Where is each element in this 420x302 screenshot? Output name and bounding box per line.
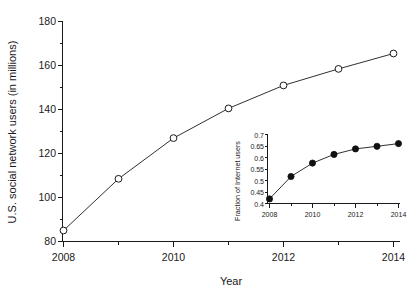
data-point-marker xyxy=(309,160,315,166)
inset-y-tick-label: 0.45 xyxy=(250,189,264,196)
main-y-axis-label: U.S. social network users (in millions) xyxy=(6,41,18,224)
main-y-tick-label: 140 xyxy=(38,103,56,115)
main-x-tick-label: 2010 xyxy=(162,251,186,263)
data-point-marker xyxy=(374,143,380,149)
data-point-marker xyxy=(170,135,177,142)
inset-y-tick-label: 0.65 xyxy=(250,143,264,150)
main-y-tick-label: 120 xyxy=(38,147,56,159)
data-point-marker xyxy=(352,146,358,152)
inset-y-tick-label: 0.5 xyxy=(254,178,264,185)
data-point-marker xyxy=(225,105,232,112)
data-point-marker xyxy=(115,175,122,182)
inset-x-ticks xyxy=(270,204,399,208)
inset-x-tick-label: 2012 xyxy=(348,211,364,218)
main-y-tick-label: 80 xyxy=(44,235,56,247)
main-x-tick-label: 2012 xyxy=(272,251,296,263)
inset-y-tick-label: 0.7 xyxy=(254,132,264,139)
inset-series-markers xyxy=(266,141,401,202)
inset-y-axis-label: Fraction of Internet users xyxy=(233,141,242,221)
main-x-axis-label: Year xyxy=(220,275,243,287)
inset-plot: Fraction of Internet users 0.7 0.65 0.6 … xyxy=(233,132,406,221)
main-plot: U.S. social network users (in millions) … xyxy=(6,15,405,287)
inset-y-tick-labels: 0.7 0.65 0.6 0.55 0.5 0.45 0.4 xyxy=(250,132,264,208)
data-point-marker xyxy=(390,50,397,57)
main-y-tick-labels: 180 160 140 120 100 80 xyxy=(38,15,56,247)
data-point-marker xyxy=(331,151,337,157)
inset-y-tick-label: 0.6 xyxy=(254,155,264,162)
chart-svg: U.S. social network users (in millions) … xyxy=(0,0,420,302)
main-y-tick-label: 160 xyxy=(38,59,56,71)
inset-x-tick-label: 2008 xyxy=(262,211,278,218)
main-y-tick-label: 180 xyxy=(38,15,56,27)
main-series-markers xyxy=(60,50,397,234)
inset-x-tick-label: 2010 xyxy=(305,211,321,218)
data-point-marker xyxy=(60,227,67,234)
data-point-marker xyxy=(280,82,287,89)
main-x-tick-label: 2014 xyxy=(382,251,406,263)
figure-canvas: U.S. social network users (in millions) … xyxy=(0,0,420,302)
data-point-marker xyxy=(266,196,272,202)
main-x-minor-ticks xyxy=(119,242,339,246)
inset-x-tick-label: 2014 xyxy=(391,211,407,218)
inset-y-tick-label: 0.4 xyxy=(254,201,264,208)
inset-y-tick-label: 0.55 xyxy=(250,166,264,173)
main-x-tick-labels: 2008 2010 2012 2014 xyxy=(52,251,406,263)
data-point-marker xyxy=(395,141,401,147)
data-point-marker xyxy=(288,173,294,179)
main-x-tick-label: 2008 xyxy=(52,251,76,263)
inset-x-tick-labels: 2008 2010 2012 2014 xyxy=(262,211,407,218)
data-point-marker xyxy=(335,66,342,73)
main-y-tick-label: 100 xyxy=(38,191,56,203)
